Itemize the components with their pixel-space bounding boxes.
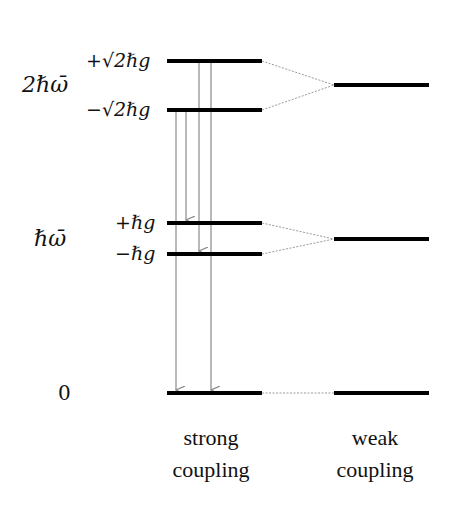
strong-levels (167, 59, 262, 395)
level-2hw-weak (334, 83, 429, 87)
level-plus-sqrt2-hg (167, 59, 262, 63)
connectors (262, 61, 334, 393)
transitions (176, 63, 211, 390)
level-label-minus-hg: −ℏg (115, 242, 155, 264)
level-label-minus-sqrt2-hg: −√2ℏg (86, 98, 151, 120)
level-label-plus-hg: +ℏg (115, 211, 155, 233)
level-zero-weak (334, 391, 429, 395)
weak-levels (334, 83, 429, 395)
connector (262, 239, 334, 254)
connector (262, 223, 334, 239)
caption-weak-line1: weak (352, 425, 398, 450)
caption-weak-line2: coupling (337, 457, 414, 482)
level-label-plus-sqrt2-hg: +√2ℏg (86, 49, 151, 71)
level-hw-weak (334, 237, 429, 241)
level-minus-hg (167, 252, 262, 256)
level-plus-hg (167, 221, 262, 225)
connector (262, 61, 334, 85)
energy-level-diagram: 2ℏω̄ ℏω̄ 0 +√2ℏg −√2ℏg +ℏg −ℏg strong co… (0, 0, 458, 513)
caption-strong-line1: strong (184, 425, 239, 450)
level-zero-strong (167, 391, 262, 395)
energy-label-zero: 0 (58, 381, 71, 405)
energy-label-hw: ℏω̄ (34, 226, 66, 251)
level-minus-sqrt2-hg (167, 108, 262, 112)
energy-label-2hw: 2ℏω̄ (21, 72, 68, 97)
connector (262, 85, 334, 110)
caption-strong-line2: coupling (173, 457, 250, 482)
